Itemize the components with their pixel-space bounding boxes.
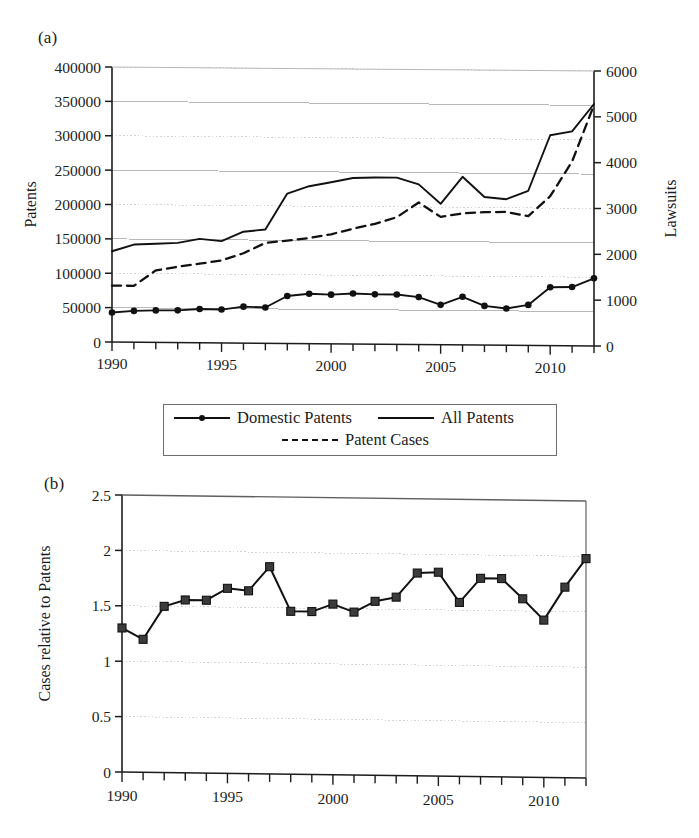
panel-b: (b) 00.511.522.519901995200020052010Case… <box>0 470 699 838</box>
series-marker <box>223 584 231 592</box>
series-marker <box>519 595 527 603</box>
ytick-label: 1.5 <box>92 597 112 614</box>
legend-row-bottom: Patent Cases <box>282 430 455 450</box>
series-marker <box>434 568 442 576</box>
y2-axis-title: Lawsuits <box>662 180 679 238</box>
series-marker <box>525 302 532 309</box>
xtick-label: 1995 <box>212 788 243 805</box>
series-marker <box>240 303 247 310</box>
ytick-label: 1 <box>103 653 111 670</box>
xtick-label: 2005 <box>425 358 456 375</box>
ytick-label: 2.5 <box>92 487 112 504</box>
ytick-label: 0 <box>103 764 111 781</box>
panel-a-plot: 0500001000001500002000002500003000003500… <box>0 0 699 470</box>
series-marker <box>540 616 548 624</box>
legend-label-patent-cases: Patent Cases <box>345 430 429 450</box>
series-marker <box>459 293 466 300</box>
xtick-label: 1995 <box>206 356 237 373</box>
series-marker <box>131 308 138 315</box>
axis-top-rule <box>122 495 586 501</box>
xtick-label: 2010 <box>535 359 566 376</box>
ytick-label-left: 250000 <box>55 162 102 179</box>
series-marker <box>477 574 485 582</box>
ytick-label-right: 3000 <box>606 200 637 217</box>
panel-b-plot: 00.511.522.519901995200020052010Cases re… <box>0 470 699 838</box>
y-axis-title: Patents <box>22 181 39 227</box>
legend-row-top: Domestic Patents All Patents <box>174 408 540 428</box>
series-marker <box>372 291 379 298</box>
series-line <box>112 105 594 286</box>
series-marker <box>437 302 444 309</box>
ytick-label-right: 1000 <box>606 292 637 309</box>
gridline-y <box>112 273 594 277</box>
panel-a-axes: 0500001000001500002000002500003000003500… <box>22 59 679 376</box>
panel-b-axes: 00.511.522.519901995200020052010Cases re… <box>36 487 586 810</box>
legend-swatch-dashed-icon <box>282 434 338 446</box>
legend-item-patent-cases: Patent Cases <box>282 430 429 450</box>
series-marker <box>394 291 401 298</box>
series-line <box>122 559 586 640</box>
legend-swatch-line-icon <box>378 412 434 424</box>
gridline-y <box>122 661 586 667</box>
xtick-label: 2000 <box>316 357 347 374</box>
series-marker <box>118 624 126 632</box>
ytick-label-left: 400000 <box>55 59 102 76</box>
panel-a-series <box>109 104 598 316</box>
legend-label-all-patents: All Patents <box>441 408 514 428</box>
series-marker <box>413 569 421 577</box>
series-marker <box>481 303 488 310</box>
ytick-label-right: 4000 <box>606 154 637 171</box>
series-marker <box>328 291 335 298</box>
legend-swatch-line-marker-icon <box>174 412 230 424</box>
series-marker <box>392 593 400 601</box>
series-marker <box>181 596 189 604</box>
xtick-label: 2005 <box>423 791 454 808</box>
series-marker <box>245 587 253 595</box>
ytick-label-right: 6000 <box>606 63 637 80</box>
ytick-label-right: 2000 <box>606 246 637 263</box>
gridline-y <box>122 717 586 723</box>
gridline-y <box>112 205 594 209</box>
xtick-label: 1990 <box>107 787 138 804</box>
series-marker <box>139 635 147 643</box>
series-marker <box>569 284 576 291</box>
series-marker <box>196 306 203 313</box>
series-marker <box>415 294 422 301</box>
xtick-label: 2010 <box>528 792 559 809</box>
gridline-y <box>112 101 594 105</box>
series-marker <box>202 596 210 604</box>
series-marker <box>174 307 181 314</box>
series-marker <box>287 607 295 615</box>
series-marker <box>350 290 357 297</box>
series-marker <box>109 309 116 316</box>
ytick-label-left: 200000 <box>55 196 102 213</box>
series-marker <box>153 307 160 314</box>
ytick-label-left: 300000 <box>55 127 102 144</box>
series-marker <box>329 600 337 608</box>
series-marker <box>266 563 274 571</box>
ytick-label-left: 0 <box>93 334 101 351</box>
series-marker <box>547 284 554 291</box>
gridline-y <box>112 170 594 174</box>
panel-a: (a) 050000100000150000200000250000300000… <box>0 0 699 470</box>
series-marker <box>455 598 463 606</box>
ytick-label: 2 <box>103 542 111 559</box>
series-marker <box>308 608 316 616</box>
series-marker <box>582 555 590 563</box>
xtick-label: 1990 <box>97 355 128 372</box>
ytick-label-right: 0 <box>606 338 614 355</box>
ytick-label-left: 350000 <box>55 93 102 110</box>
series-marker <box>262 304 269 311</box>
ytick-label-right: 5000 <box>606 108 637 125</box>
series-marker <box>306 290 313 297</box>
legend-item-domestic-patents: Domestic Patents <box>174 408 352 428</box>
ytick-label: 0.5 <box>92 708 112 725</box>
y-axis-title: Cases relative to Patents <box>36 546 53 702</box>
xtick-label: 2000 <box>317 790 348 807</box>
series-marker <box>218 306 225 313</box>
legend: Domestic Patents All Patents Patent Case… <box>163 404 557 456</box>
axis-top-rule <box>112 67 594 71</box>
series-marker <box>591 275 598 282</box>
series-marker <box>160 602 168 610</box>
series-marker <box>371 597 379 605</box>
